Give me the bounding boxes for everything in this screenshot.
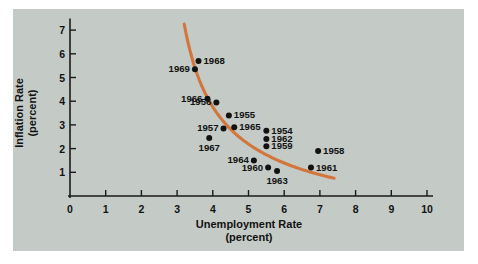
y-tick-label-7: 7: [59, 25, 65, 36]
x-tick-label-4: 4: [210, 204, 216, 215]
y-axis-title: Inflation Rate (percent): [13, 78, 39, 148]
data-point-1959: [263, 143, 269, 149]
x-tick-label-3: 3: [174, 204, 180, 215]
x-tick-label-1: 1: [103, 204, 109, 215]
point-label-1959: 1959: [271, 141, 292, 151]
x-axis-title: Unemployment Rate (percent): [196, 218, 302, 244]
y-tick-label-6: 6: [59, 49, 65, 60]
y-tick-label-1: 1: [59, 167, 65, 178]
data-point-1957: [221, 125, 227, 131]
y-axis-title-unit: (percent): [26, 78, 39, 148]
x-tick-label-6: 6: [281, 204, 287, 215]
data-point-1967: [206, 135, 212, 141]
x-tick-label-2: 2: [138, 204, 144, 215]
x-axis-title-unit: (percent): [196, 231, 302, 244]
point-label-1961: 1961: [316, 163, 337, 173]
data-point-1963: [274, 168, 280, 174]
data-point-1955: [226, 112, 232, 118]
data-point-1958: [315, 148, 321, 154]
x-tick-label-9: 9: [388, 204, 394, 215]
point-label-1955: 1955: [234, 111, 255, 121]
data-point-1968: [196, 58, 202, 64]
y-tick-label-2: 2: [59, 143, 65, 154]
point-label-1956: 1956: [190, 98, 211, 108]
data-point-1965: [231, 124, 237, 130]
y-tick-label-5: 5: [59, 72, 65, 83]
data-point-1969: [192, 66, 198, 72]
point-label-1967: 1967: [199, 143, 220, 153]
x-axis-title-main: Unemployment Rate: [196, 218, 302, 231]
y-tick-label-4: 4: [59, 96, 65, 107]
point-label-1957: 1957: [197, 124, 218, 134]
point-label-1958: 1958: [323, 146, 344, 156]
data-points-group: [192, 58, 321, 174]
point-label-1960: 1960: [242, 163, 263, 173]
data-point-1961: [308, 165, 314, 171]
point-label-1969: 1969: [169, 64, 190, 74]
point-label-1968: 1968: [204, 56, 225, 66]
x-tick-label-5: 5: [246, 204, 252, 215]
x-tick-label-0: 0: [67, 204, 73, 215]
y-tick-label-3: 3: [59, 120, 65, 131]
data-point-1954: [263, 128, 269, 134]
data-point-1960: [265, 165, 271, 171]
x-tick-label-8: 8: [353, 204, 359, 215]
point-label-1965: 1965: [239, 122, 260, 132]
chart-figure: 0123456789101234567 19681969196619561955…: [0, 0, 478, 264]
y-axis-title-main: Inflation Rate: [13, 78, 26, 148]
data-point-1962: [263, 136, 269, 142]
x-tick-label-10: 10: [421, 204, 433, 215]
x-tick-label-7: 7: [317, 204, 323, 215]
point-label-1963: 1963: [266, 176, 287, 186]
data-point-1956: [213, 99, 219, 105]
